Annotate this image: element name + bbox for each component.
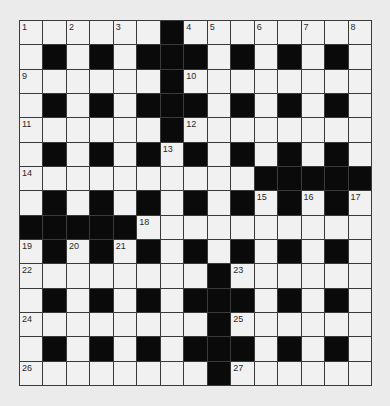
answer-cell-r7-c8[interactable] [208, 191, 230, 214]
answer-cell-r0-c4[interactable]: 3 [114, 21, 136, 44]
answer-cell-r2-c0[interactable]: 9 [20, 70, 42, 93]
answer-cell-r10-c0[interactable]: 22 [20, 264, 42, 287]
answer-cell-r5-c0[interactable] [20, 143, 42, 166]
answer-cell-r9-c8[interactable] [208, 240, 230, 263]
answer-cell-r1-c10[interactable] [255, 45, 277, 68]
answer-cell-r9-c2[interactable]: 20 [67, 240, 89, 263]
answer-cell-r14-c9[interactable]: 27 [231, 362, 253, 385]
answer-cell-r2-c11[interactable] [278, 70, 300, 93]
answer-cell-r14-c13[interactable] [325, 362, 347, 385]
answer-cell-r12-c11[interactable] [278, 313, 300, 336]
answer-cell-r0-c2[interactable]: 2 [67, 21, 89, 44]
answer-cell-r9-c10[interactable] [255, 240, 277, 263]
answer-cell-r12-c9[interactable]: 25 [231, 313, 253, 336]
answer-cell-r14-c3[interactable] [90, 362, 112, 385]
answer-cell-r2-c8[interactable] [208, 70, 230, 93]
answer-cell-r14-c11[interactable] [278, 362, 300, 385]
answer-cell-r14-c12[interactable] [302, 362, 324, 385]
answer-cell-r9-c0[interactable]: 19 [20, 240, 42, 263]
answer-cell-r8-c5[interactable]: 18 [137, 216, 159, 239]
answer-cell-r10-c14[interactable] [349, 264, 371, 287]
answer-cell-r5-c10[interactable] [255, 143, 277, 166]
answer-cell-r14-c10[interactable] [255, 362, 277, 385]
answer-cell-r10-c13[interactable] [325, 264, 347, 287]
answer-cell-r7-c12[interactable]: 16 [302, 191, 324, 214]
answer-cell-r13-c10[interactable] [255, 337, 277, 360]
answer-cell-r11-c12[interactable] [302, 289, 324, 312]
answer-cell-r12-c4[interactable] [114, 313, 136, 336]
answer-cell-r0-c3[interactable] [90, 21, 112, 44]
answer-cell-r1-c12[interactable] [302, 45, 324, 68]
answer-cell-r12-c1[interactable] [43, 313, 65, 336]
answer-cell-r4-c0[interactable]: 11 [20, 118, 42, 141]
answer-cell-r8-c13[interactable] [325, 216, 347, 239]
answer-cell-r0-c13[interactable] [325, 21, 347, 44]
answer-cell-r12-c10[interactable] [255, 313, 277, 336]
answer-cell-r0-c9[interactable] [231, 21, 253, 44]
answer-cell-r13-c2[interactable] [67, 337, 89, 360]
answer-cell-r0-c10[interactable]: 6 [255, 21, 277, 44]
answer-cell-r2-c4[interactable] [114, 70, 136, 93]
answer-cell-r11-c6[interactable] [161, 289, 183, 312]
answer-cell-r0-c5[interactable] [137, 21, 159, 44]
answer-cell-r7-c2[interactable] [67, 191, 89, 214]
answer-cell-r8-c14[interactable] [349, 216, 371, 239]
answer-cell-r4-c14[interactable] [349, 118, 371, 141]
answer-cell-r8-c11[interactable] [278, 216, 300, 239]
answer-cell-r5-c4[interactable] [114, 143, 136, 166]
answer-cell-r2-c9[interactable] [231, 70, 253, 93]
answer-cell-r10-c11[interactable] [278, 264, 300, 287]
answer-cell-r11-c14[interactable] [349, 289, 371, 312]
answer-cell-r12-c5[interactable] [137, 313, 159, 336]
answer-cell-r13-c14[interactable] [349, 337, 371, 360]
answer-cell-r0-c1[interactable] [43, 21, 65, 44]
answer-cell-r1-c2[interactable] [67, 45, 89, 68]
answer-cell-r4-c9[interactable] [231, 118, 253, 141]
answer-cell-r10-c7[interactable] [184, 264, 206, 287]
answer-cell-r10-c5[interactable] [137, 264, 159, 287]
answer-cell-r8-c12[interactable] [302, 216, 324, 239]
answer-cell-r12-c0[interactable]: 24 [20, 313, 42, 336]
answer-cell-r0-c14[interactable]: 8 [349, 21, 371, 44]
answer-cell-r8-c9[interactable] [231, 216, 253, 239]
answer-cell-r2-c10[interactable] [255, 70, 277, 93]
answer-cell-r8-c10[interactable] [255, 216, 277, 239]
answer-cell-r9-c14[interactable] [349, 240, 371, 263]
answer-cell-r4-c8[interactable] [208, 118, 230, 141]
answer-cell-r7-c0[interactable] [20, 191, 42, 214]
answer-cell-r2-c13[interactable] [325, 70, 347, 93]
answer-cell-r7-c10[interactable]: 15 [255, 191, 277, 214]
answer-cell-r3-c10[interactable] [255, 94, 277, 117]
answer-cell-r6-c5[interactable] [137, 167, 159, 190]
answer-cell-r4-c12[interactable] [302, 118, 324, 141]
answer-cell-r6-c1[interactable] [43, 167, 65, 190]
answer-cell-r12-c13[interactable] [325, 313, 347, 336]
answer-cell-r14-c6[interactable] [161, 362, 183, 385]
answer-cell-r3-c14[interactable] [349, 94, 371, 117]
answer-cell-r14-c0[interactable]: 26 [20, 362, 42, 385]
answer-cell-r4-c7[interactable]: 12 [184, 118, 206, 141]
answer-cell-r12-c3[interactable] [90, 313, 112, 336]
answer-cell-r5-c6[interactable]: 13 [161, 143, 183, 166]
answer-cell-r12-c12[interactable] [302, 313, 324, 336]
answer-cell-r12-c7[interactable] [184, 313, 206, 336]
answer-cell-r7-c6[interactable] [161, 191, 183, 214]
answer-cell-r10-c10[interactable] [255, 264, 277, 287]
answer-cell-r12-c14[interactable] [349, 313, 371, 336]
answer-cell-r6-c0[interactable]: 14 [20, 167, 42, 190]
answer-cell-r4-c10[interactable] [255, 118, 277, 141]
answer-cell-r14-c4[interactable] [114, 362, 136, 385]
answer-cell-r2-c5[interactable] [137, 70, 159, 93]
answer-cell-r0-c0[interactable]: 1 [20, 21, 42, 44]
answer-cell-r1-c14[interactable] [349, 45, 371, 68]
answer-cell-r14-c2[interactable] [67, 362, 89, 385]
answer-cell-r3-c2[interactable] [67, 94, 89, 117]
answer-cell-r14-c5[interactable] [137, 362, 159, 385]
answer-cell-r4-c4[interactable] [114, 118, 136, 141]
answer-cell-r10-c6[interactable] [161, 264, 183, 287]
answer-cell-r9-c12[interactable] [302, 240, 324, 263]
answer-cell-r8-c7[interactable] [184, 216, 206, 239]
answer-cell-r0-c12[interactable]: 7 [302, 21, 324, 44]
answer-cell-r7-c14[interactable]: 17 [349, 191, 371, 214]
answer-cell-r1-c0[interactable] [20, 45, 42, 68]
